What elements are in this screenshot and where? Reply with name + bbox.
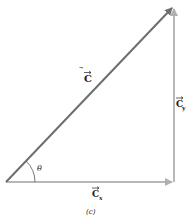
svg-text:⃗: ⃗ bbox=[79, 66, 83, 69]
svg-text:y: y bbox=[181, 104, 186, 112]
label-cy: C y bbox=[176, 97, 186, 113]
svg-text:C: C bbox=[84, 73, 92, 84]
angle-arc bbox=[26, 161, 35, 182]
svg-text:x: x bbox=[98, 194, 103, 201]
vector-c-arrow bbox=[6, 8, 172, 182]
figure-caption: (c) bbox=[86, 208, 96, 216]
label-cx: C x bbox=[92, 187, 103, 202]
angle-theta-label: θ bbox=[37, 164, 42, 173]
label-c: C ⃗ bbox=[79, 66, 92, 84]
vector-triangle-diagram: C ⃗ C y C x θ (c) bbox=[0, 0, 186, 218]
